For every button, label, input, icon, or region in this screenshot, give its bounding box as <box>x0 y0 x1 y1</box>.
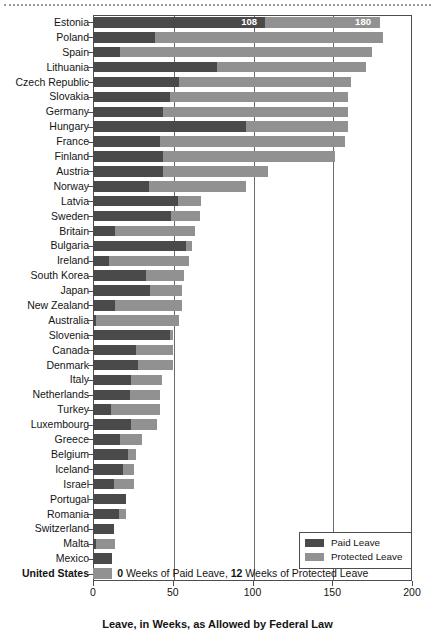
stacked-bar[interactable] <box>93 449 136 460</box>
stacked-bar[interactable] <box>93 47 372 58</box>
bar-segment-paid-leave <box>93 226 115 237</box>
row-label-hungary: Hungary <box>0 119 89 134</box>
chart-row[interactable]: Hungary <box>0 119 435 134</box>
chart-row[interactable]: Japan <box>0 283 435 298</box>
row-label-austria: Austria <box>0 164 89 179</box>
bar-segment-paid-leave <box>93 196 178 207</box>
chart-row[interactable]: Bulgaria <box>0 238 435 253</box>
chart-row[interactable]: Finland <box>0 149 435 164</box>
chart-row[interactable]: Norway <box>0 179 435 194</box>
legend-swatch-protected-leave <box>305 553 324 561</box>
chart-row[interactable]: Britain <box>0 224 435 239</box>
bar-segment-paid-leave <box>93 345 136 356</box>
chart-row[interactable]: Slovakia <box>0 89 435 104</box>
stacked-bar[interactable]: 108180 <box>93 17 380 28</box>
chart-row[interactable]: Czech Republic <box>0 75 435 90</box>
chart-row[interactable]: Estonia108180 <box>0 15 435 30</box>
stacked-bar[interactable] <box>93 524 114 535</box>
stacked-bar[interactable] <box>93 494 126 505</box>
stacked-bar[interactable] <box>93 285 182 296</box>
chart-row[interactable]: Iceland <box>0 462 435 477</box>
chart-row[interactable]: New Zealand <box>0 298 435 313</box>
row-label-ireland: Ireland <box>0 253 89 268</box>
stacked-bar[interactable] <box>93 136 345 147</box>
row-label-canada: Canada <box>0 343 89 358</box>
chart-row[interactable]: Romania <box>0 507 435 522</box>
stacked-bar[interactable] <box>93 553 112 564</box>
chart-row[interactable]: Canada <box>0 343 435 358</box>
chart-row[interactable]: Australia <box>0 313 435 328</box>
stacked-bar[interactable] <box>93 211 200 222</box>
stacked-bar[interactable] <box>93 419 157 430</box>
chart-row[interactable]: Lithuania <box>0 60 435 75</box>
chart-row[interactable]: Italy <box>0 372 435 387</box>
x-axis: 050100150200 <box>93 581 412 601</box>
x-axis-title: Leave, in Weeks, as Allowed by Federal L… <box>0 618 435 630</box>
row-label-new-zealand: New Zealand <box>0 298 89 313</box>
stacked-bar[interactable] <box>93 32 383 43</box>
chart-row[interactable]: Ireland <box>0 253 435 268</box>
stacked-bar[interactable] <box>93 568 112 579</box>
chart-row[interactable]: Latvia <box>0 194 435 209</box>
stacked-bar[interactable] <box>93 256 189 267</box>
x-tick-label-0: 0 <box>90 586 96 598</box>
bar-segment-paid-leave <box>93 524 114 535</box>
chart-row[interactable]: Germany <box>0 104 435 119</box>
bar-segment-protected-leave <box>93 539 115 550</box>
chart-row[interactable]: Sweden <box>0 209 435 224</box>
stacked-bar[interactable] <box>93 151 335 162</box>
stacked-bar[interactable] <box>93 196 201 207</box>
stacked-bar[interactable] <box>93 62 366 73</box>
stacked-bar[interactable] <box>93 121 348 132</box>
chart-row[interactable]: Belgium <box>0 447 435 462</box>
chart-row[interactable]: Portugal <box>0 492 435 507</box>
stacked-bar[interactable] <box>93 107 348 118</box>
bar-segment-paid-leave <box>93 479 114 490</box>
row-label-mexico: Mexico <box>0 551 89 566</box>
stacked-bar[interactable] <box>93 479 134 490</box>
stacked-bar[interactable] <box>93 300 182 311</box>
chart-row[interactable]: Israel <box>0 477 435 492</box>
row-label-italy: Italy <box>0 372 89 387</box>
stacked-bar[interactable] <box>93 509 126 520</box>
stacked-bar[interactable] <box>93 345 173 356</box>
stacked-bar[interactable] <box>93 166 268 177</box>
stacked-bar[interactable] <box>93 434 142 445</box>
stacked-bar[interactable] <box>93 241 192 252</box>
stacked-bar[interactable] <box>93 390 160 401</box>
chart-row[interactable]: Austria <box>0 164 435 179</box>
row-label-romania: Romania <box>0 507 89 522</box>
chart-row[interactable]: Spain <box>0 45 435 60</box>
stacked-bar[interactable] <box>93 270 184 281</box>
stacked-bar[interactable] <box>93 226 195 237</box>
stacked-bar[interactable] <box>93 315 179 326</box>
stacked-bar[interactable] <box>93 330 173 341</box>
stacked-bar[interactable] <box>93 77 351 88</box>
bar-segment-paid-leave <box>93 494 126 505</box>
stacked-bar[interactable] <box>93 360 173 371</box>
row-label-norway: Norway <box>0 179 89 194</box>
chart-row[interactable]: Denmark <box>0 358 435 373</box>
stacked-bar[interactable] <box>93 375 162 386</box>
bar-segment-paid-leave <box>93 107 163 118</box>
row-label-germany: Germany <box>0 104 89 119</box>
chart-row[interactable]: Netherlands <box>0 387 435 402</box>
stacked-bar[interactable] <box>93 464 134 475</box>
stacked-bar[interactable] <box>93 539 115 550</box>
stacked-bar[interactable] <box>93 92 348 103</box>
bar-segment-paid-leave <box>93 360 138 371</box>
row-label-greece: Greece <box>0 432 89 447</box>
stacked-bar[interactable] <box>93 404 160 415</box>
x-tick-label-50: 50 <box>167 586 179 598</box>
chart-row[interactable]: Luxembourg <box>0 417 435 432</box>
chart-row[interactable]: South Korea <box>0 268 435 283</box>
chart-row[interactable]: France <box>0 134 435 149</box>
row-label-belgium: Belgium <box>0 447 89 462</box>
chart-row[interactable]: Poland <box>0 30 435 45</box>
chart-row[interactable]: Greece <box>0 432 435 447</box>
chart-row[interactable]: Turkey <box>0 402 435 417</box>
bar-segment-paid-leave <box>93 390 130 401</box>
chart-row[interactable]: Slovenia <box>0 328 435 343</box>
row-label-luxembourg: Luxembourg <box>0 417 89 432</box>
stacked-bar[interactable] <box>93 181 246 192</box>
